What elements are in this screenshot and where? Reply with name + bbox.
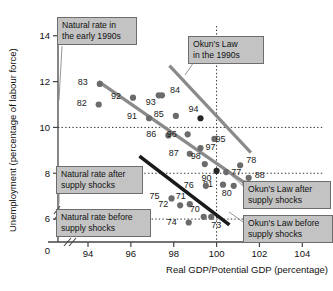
- data-point-81[interactable]: [220, 182, 226, 188]
- data-point-75[interactable]: [168, 195, 174, 201]
- data-point-label-73: 73: [211, 220, 221, 230]
- chart-canvas: 6810121409496981001021048382929384918594…: [0, 0, 333, 291]
- callout-okuns-law-after-supply-shocks: Okun's Law after supply shocks: [243, 181, 331, 209]
- data-point-label-93: 93: [146, 97, 156, 107]
- callout-okuns-law-1990s-text: Okun's Law in the 1990s: [193, 39, 240, 60]
- y-axis-title: Unemployment (percentage of labour force…: [7, 48, 18, 232]
- data-point-label-84: 84: [170, 85, 180, 95]
- data-point-91[interactable]: [146, 115, 152, 121]
- data-point-74[interactable]: [186, 219, 192, 225]
- x-axis-title: Real GDP/Potential GDP (percentage): [166, 264, 328, 275]
- data-point-label-98: 98: [191, 151, 201, 161]
- y-tick-label-10: 10: [39, 122, 50, 133]
- callout-natural-rate-after-supply-shocks-text: Natural rate after supply shocks: [61, 169, 125, 190]
- data-point-83[interactable]: [97, 81, 103, 87]
- data-point-85[interactable]: [173, 113, 179, 119]
- y-tick-label-8: 8: [45, 168, 50, 179]
- x-tick-label-98: 98: [168, 248, 179, 259]
- data-point-label-80: 80: [222, 188, 232, 198]
- data-point-label-70: 70: [190, 204, 200, 214]
- data-point-98[interactable]: [202, 161, 208, 167]
- data-point-label-71: 71: [176, 191, 186, 201]
- data-point-82[interactable]: [96, 101, 102, 107]
- data-point-label-78: 78: [246, 155, 256, 165]
- data-point-label-87: 87: [169, 148, 179, 158]
- data-point-label-97: 97: [206, 142, 216, 152]
- data-point-76[interactable]: [203, 183, 209, 189]
- x-tick-label-100: 100: [209, 248, 225, 259]
- leader-line-callout-okuns-law-before-supply-shocks: [229, 212, 243, 222]
- data-point-label-76: 76: [184, 180, 194, 190]
- x-tick-label-94: 94: [83, 248, 94, 259]
- data-point-78[interactable]: [237, 162, 243, 168]
- y-tick-label-6: 6: [45, 213, 50, 224]
- data-point-label-82: 82: [77, 98, 87, 108]
- data-point-label-95: 95: [215, 134, 225, 144]
- data-point-label-74: 74: [167, 217, 177, 227]
- okuns-law-scatter-chart: 6810121409496981001021048382929384918594…: [0, 0, 333, 291]
- x-tick-label-102: 102: [251, 248, 267, 259]
- callout-okuns-law-after-supply-shocks-text: Okun's Law after supply shocks: [248, 184, 312, 205]
- data-point-label-83: 83: [78, 77, 88, 87]
- callout-natural-rate-before-supply-shocks: Natural rate before supply shocks: [56, 209, 151, 237]
- data-point-96[interactable]: [185, 131, 191, 137]
- y-tick-label-12: 12: [39, 76, 50, 87]
- callout-natural-rate-before-supply-shocks-text: Natural rate before supply shocks: [61, 212, 133, 233]
- data-point-70[interactable]: [201, 214, 207, 220]
- data-point-72[interactable]: [177, 202, 183, 208]
- data-point-label-77: 77: [231, 167, 241, 177]
- data-point-label-85: 85: [154, 109, 164, 119]
- data-point-label-94: 94: [188, 104, 198, 114]
- callout-natural-rate-early-1990s: Natural rate in the early 1990s: [57, 17, 137, 45]
- callout-natural-rate-after-supply-shocks: Natural rate after supply shocks: [56, 166, 143, 194]
- data-point-90[interactable]: [213, 168, 219, 174]
- data-point-label-92: 92: [111, 91, 121, 101]
- data-point-label-86: 86: [146, 129, 156, 139]
- data-point-84[interactable]: [159, 92, 165, 98]
- data-point-94[interactable]: [197, 115, 203, 121]
- x-tick-label-104: 104: [294, 248, 310, 259]
- x-tick-label-96: 96: [126, 248, 137, 259]
- data-point-label-91: 91: [127, 111, 137, 121]
- callout-okuns-law-1990s: Okun's Law in the 1990s: [188, 36, 264, 64]
- y-tick-label-14: 14: [39, 30, 50, 41]
- callout-okuns-law-before-supply-shocks-text: Okun's Law before supply shocks: [248, 218, 319, 239]
- data-point-label-88: 88: [255, 170, 265, 180]
- leader-line-callout-natural-rate-early-1990s: [59, 46, 62, 100]
- callout-okuns-law-before-supply-shocks: Okun's Law before supply shocks: [243, 215, 333, 243]
- data-point-92[interactable]: [130, 95, 136, 101]
- callout-natural-rate-early-1990s-text: Natural rate in the early 1990s: [62, 20, 121, 41]
- x-origin-label: 0: [45, 245, 50, 256]
- data-point-88[interactable]: [246, 175, 252, 181]
- data-point-label-72: 72: [158, 199, 168, 209]
- data-point-label-96: 96: [167, 129, 177, 139]
